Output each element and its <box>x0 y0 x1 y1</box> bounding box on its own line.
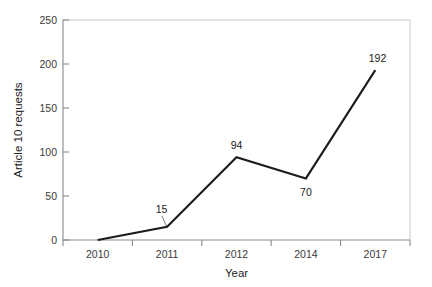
data-label-2011: 15 <box>156 203 168 215</box>
data-label-2012: 94 <box>231 139 243 151</box>
x-tick-label-2011: 2011 <box>156 248 179 260</box>
data-label-2017: 192 <box>369 52 387 64</box>
x-tick-label-2014: 2014 <box>294 248 318 260</box>
y-tick-label-0: 0 <box>51 234 57 246</box>
chart-canvas: 0 50 100 150 200 250 2010 2011 2012 2014… <box>0 0 432 287</box>
line-chart-figure: 0 50 100 150 200 250 2010 2011 2012 2014… <box>0 0 432 287</box>
y-tick-label-100: 100 <box>39 146 57 158</box>
data-label-2014: 70 <box>300 186 312 198</box>
y-tick-label-200: 200 <box>39 58 57 70</box>
x-tick-label-2012: 2012 <box>225 248 249 260</box>
y-tick-label-250: 250 <box>39 14 57 26</box>
x-tick-label-2010: 2010 <box>86 248 110 260</box>
y-tick-label-150: 150 <box>39 102 57 114</box>
x-axis-title: Year <box>225 267 248 279</box>
x-tick-label-2017: 2017 <box>364 248 388 260</box>
y-tick-label-50: 50 <box>45 190 57 202</box>
figure-background <box>0 0 432 287</box>
y-axis-title: Article 10 requests <box>12 82 24 177</box>
